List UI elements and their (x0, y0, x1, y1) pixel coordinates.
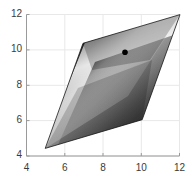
ytick-label-2: 8 (2, 80, 22, 90)
figure-container: 4 6 8 10 12 4 6 8 10 12 (0, 0, 189, 183)
ytick-label-3: 10 (2, 44, 22, 54)
data-point-marker (122, 50, 128, 56)
plot-canvas (0, 0, 189, 183)
ytick-label-0: 4 (2, 150, 22, 160)
xtick-label-3: 10 (131, 163, 151, 173)
xtick-label-1: 6 (55, 163, 75, 173)
xtick-label-2: 8 (93, 163, 113, 173)
ytick-label-1: 6 (2, 115, 22, 125)
xtick-label-0: 4 (17, 163, 37, 173)
xtick-label-4: 12 (170, 163, 190, 173)
ytick-label-4: 12 (2, 9, 22, 19)
